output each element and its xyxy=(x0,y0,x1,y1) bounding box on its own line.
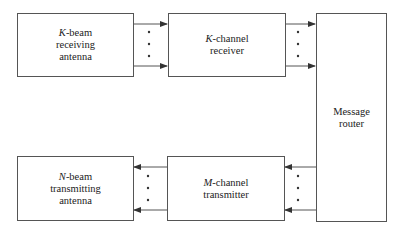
arrows-antenna-to-receiver xyxy=(133,24,167,66)
block-label-line2: transmitting xyxy=(50,183,101,195)
m-channel-transmitter-block: M-channel transmitter xyxy=(167,156,285,221)
block-label-line1: N-beam xyxy=(59,171,92,183)
block-label-line3: antenna xyxy=(59,51,92,63)
block-label-line2: receiving xyxy=(56,39,95,51)
label-text: -beam xyxy=(66,171,92,182)
block-label-line1: K-channel xyxy=(205,33,248,45)
block-label-line2: router xyxy=(339,118,364,130)
block-label-line1: M-channel xyxy=(204,177,249,189)
variable-k: K xyxy=(59,27,66,38)
block-label-line2: transmitter xyxy=(203,189,249,201)
variable-n: N xyxy=(59,171,66,182)
block-label-line3: antenna xyxy=(59,195,92,207)
arrows-receiver-to-router xyxy=(285,24,315,66)
block-label-line1: K-beam xyxy=(59,27,92,39)
arrows-transmitter-to-antenna xyxy=(134,167,167,210)
k-beam-receiving-antenna-block: K-beam receiving antenna xyxy=(17,13,134,77)
block-label-line1: Message xyxy=(333,106,370,118)
n-beam-transmitting-antenna-block: N-beam transmitting antenna xyxy=(17,156,134,221)
k-channel-receiver-block: K-channel receiver xyxy=(168,13,286,77)
arrows-router-to-transmitter xyxy=(285,167,316,210)
label-text: -beam xyxy=(66,27,92,38)
label-text: -channel xyxy=(212,177,248,188)
variable-m: M xyxy=(204,177,213,188)
message-router-block: Message router xyxy=(316,13,387,222)
block-label-line2: receiver xyxy=(210,45,244,57)
label-text: -channel xyxy=(212,33,248,44)
